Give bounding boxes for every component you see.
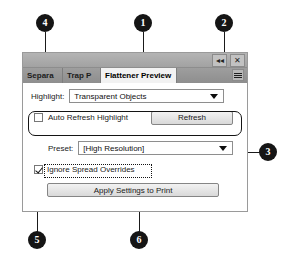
tab-flattener-preview[interactable]: Flattener Preview — [101, 68, 177, 83]
panel-menu-icon[interactable] — [232, 69, 244, 81]
apply-settings-button[interactable]: Apply Settings to Print — [47, 183, 219, 197]
preset-row: Preset: [High Resolution] — [48, 141, 243, 155]
annotated-screenshot: ◂◂ ✕ Separa Trap P Flattener Preview Hig… — [0, 0, 288, 262]
chevron-down-icon — [210, 94, 218, 99]
highlight-label: Highlight: — [31, 92, 64, 101]
panel-tabbar: Separa Trap P Flattener Preview — [23, 68, 247, 83]
auto-refresh-label: Auto Refresh Highlight — [48, 113, 128, 122]
chevron-down-icon — [219, 146, 227, 151]
callout-badge-3: 3 — [259, 143, 277, 161]
collapse-icon[interactable]: ◂◂ — [212, 54, 227, 67]
panel-titlebar: ◂◂ ✕ — [23, 53, 247, 68]
close-icon[interactable]: ✕ — [230, 54, 245, 67]
preset-label: Preset: — [48, 144, 73, 153]
auto-refresh-row: Auto Refresh Highlight Refresh — [34, 113, 234, 122]
tab-separations[interactable]: Separa — [23, 68, 63, 83]
flattener-preview-panel: ◂◂ ✕ Separa Trap P Flattener Preview Hig… — [22, 52, 248, 212]
titlebar-buttons: ◂◂ ✕ — [212, 53, 245, 67]
ignore-spread-row: Ignore Spread Overrides — [34, 165, 135, 174]
callout-badge-1: 1 — [134, 14, 152, 32]
callout-badge-6: 6 — [130, 231, 148, 249]
auto-refresh-checkbox[interactable] — [34, 113, 43, 122]
callout-badge-5: 5 — [28, 231, 46, 249]
tab-trap-presets[interactable]: Trap P — [63, 68, 101, 83]
refresh-button[interactable]: Refresh — [151, 111, 233, 125]
preset-value: [High Resolution] — [83, 144, 144, 153]
highlight-value: Transparent Objects — [74, 92, 146, 101]
highlight-row: Highlight: Transparent Objects — [31, 89, 239, 103]
panel-body: Highlight: Transparent Objects Auto Refr… — [23, 83, 247, 211]
ignore-spread-checkbox[interactable] — [34, 165, 43, 174]
callout-badge-4: 4 — [36, 14, 54, 32]
callout-badge-2: 2 — [215, 14, 233, 32]
preset-select[interactable]: [High Resolution] — [78, 141, 233, 155]
ignore-spread-label: Ignore Spread Overrides — [47, 165, 135, 174]
highlight-select[interactable]: Transparent Objects — [69, 89, 224, 103]
